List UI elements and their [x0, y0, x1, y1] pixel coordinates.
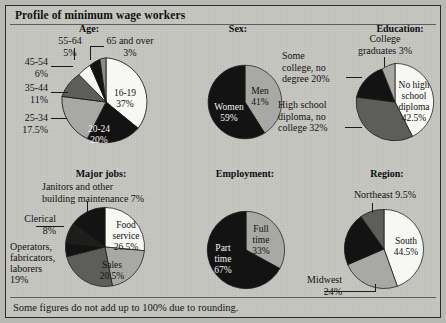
label-jobs-janitors: Janitors and other building maintenance … — [42, 181, 192, 204]
leader-jobs-janitors — [87, 201, 88, 212]
section-title-sex: Sex: — [198, 23, 278, 34]
value-jobs-sales: Sales 20.5% — [90, 260, 134, 281]
value-jobs-food-service: Food service 26.5% — [104, 220, 148, 253]
label-region-midwest: Midwest 24% — [294, 274, 342, 297]
section-title-region: Region: — [342, 168, 432, 179]
leader-jobs-clerical — [36, 226, 64, 227]
label-age-25-34: 25-34 17.5% — [5, 112, 48, 135]
leader-age-55-64 — [74, 48, 75, 60]
leader-age-35-44 — [51, 92, 68, 93]
leader-region-midwest-v — [375, 284, 376, 292]
leader-education-some-college — [346, 77, 362, 78]
label-age-35-44: 35-44 11% — [5, 82, 48, 105]
value-sex-women: Women 59% — [205, 102, 253, 123]
section-title-major-jobs: Major jobs: — [51, 168, 151, 179]
label-education-some-college: Some college, no degree 20% — [282, 50, 356, 85]
label-jobs-operators: Operators, fabricators, laborers 19% — [10, 241, 72, 285]
leader-age-65-over-v — [90, 46, 91, 60]
figure-inner: Profile of minimum wage workers Some fig… — [5, 5, 441, 318]
leader-education-hs-diploma — [345, 127, 362, 128]
label-age-45-54: 45-54 6% — [5, 56, 48, 79]
footnote-divider — [10, 297, 436, 298]
section-title-employment: Employment: — [195, 168, 295, 179]
leader-age-65-over-h — [90, 46, 104, 47]
label-age-65-over: 65 and over 3% — [94, 35, 166, 58]
label-education-hs-diploma: High school diploma, no college 32% — [278, 99, 356, 134]
label-region-northeast: Northeast 9.5% — [333, 189, 437, 201]
value-employment-part-time: Part time 67% — [202, 243, 244, 276]
leader-region-northeast — [372, 203, 373, 213]
value-education-no-hs: No high school diploma 42.5% — [388, 80, 440, 124]
value-region-south: South 44.5% — [384, 236, 428, 258]
leader-age-25-34 — [51, 118, 67, 119]
leader-region-midwest-h — [324, 291, 376, 292]
page-title: Profile of minimum wage workers — [15, 9, 185, 21]
leader-education-college-grads — [384, 57, 385, 67]
label-jobs-clerical: Clerical 8% — [8, 213, 56, 236]
leader-age-45-54 — [51, 66, 73, 67]
figure-frame: Profile of minimum wage workers Some fig… — [0, 0, 446, 323]
footnote: Some figures do not add up to 100% due t… — [13, 302, 238, 313]
value-employment-full-time: Full time 33% — [241, 224, 281, 257]
label-age-55-64: 55-64 5% — [50, 35, 90, 58]
value-age-20-24: 20-24 20% — [76, 124, 122, 145]
value-age-16-19: 16-19 37% — [102, 88, 148, 109]
section-title-age: Age: — [44, 23, 134, 34]
